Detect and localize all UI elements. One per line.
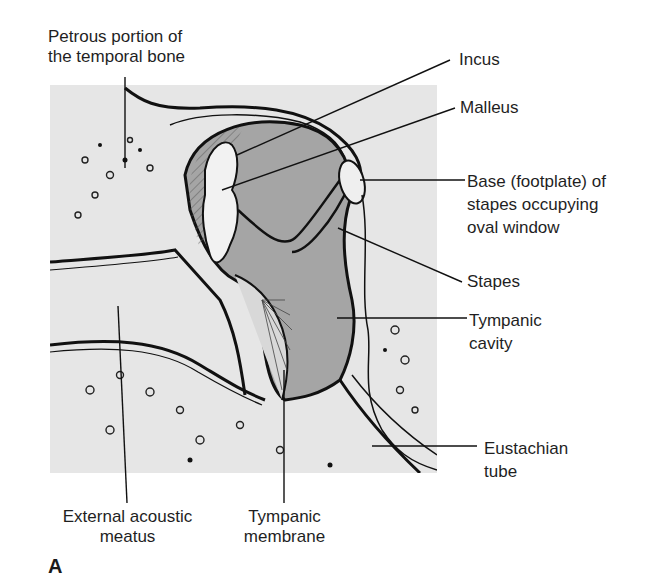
panel-letter: A — [48, 555, 62, 578]
label-line: Stapes — [467, 272, 520, 292]
label-line: Tympanic — [469, 309, 542, 332]
label-petrous-portion: Petrous portion of the temporal bone — [48, 27, 185, 67]
label-line: Tympanic — [232, 507, 337, 527]
label-stapes-footplate: Base (footplate) of stapes occupying ova… — [467, 170, 606, 239]
label-line: the temporal bone — [48, 47, 185, 67]
label-line: meatus — [45, 527, 210, 547]
label-line: Base (footplate) of — [467, 170, 606, 193]
label-line: membrane — [232, 527, 337, 547]
label-tympanic-cavity: Tympanic cavity — [469, 309, 542, 355]
label-line: Malleus — [460, 98, 519, 118]
label-malleus: Malleus — [460, 98, 519, 118]
label-line: Petrous portion of — [48, 27, 185, 47]
label-line: Eustachian — [484, 437, 568, 460]
label-line: External acoustic — [45, 507, 210, 527]
middle-ear-illustration — [0, 0, 667, 582]
label-eustachian-tube: Eustachian tube — [484, 437, 568, 483]
label-line: tube — [484, 460, 568, 483]
label-stapes: Stapes — [467, 272, 520, 292]
label-line: cavity — [469, 332, 542, 355]
label-line: stapes occupying — [467, 193, 606, 216]
ear-anatomy-figure: Petrous portion of the temporal bone Inc… — [0, 0, 667, 582]
label-external-acoustic-meatus: External acoustic meatus — [45, 507, 210, 547]
label-incus: Incus — [459, 50, 500, 70]
label-line: Incus — [459, 50, 500, 70]
label-line: oval window — [467, 216, 606, 239]
label-tympanic-membrane: Tympanic membrane — [232, 507, 337, 547]
